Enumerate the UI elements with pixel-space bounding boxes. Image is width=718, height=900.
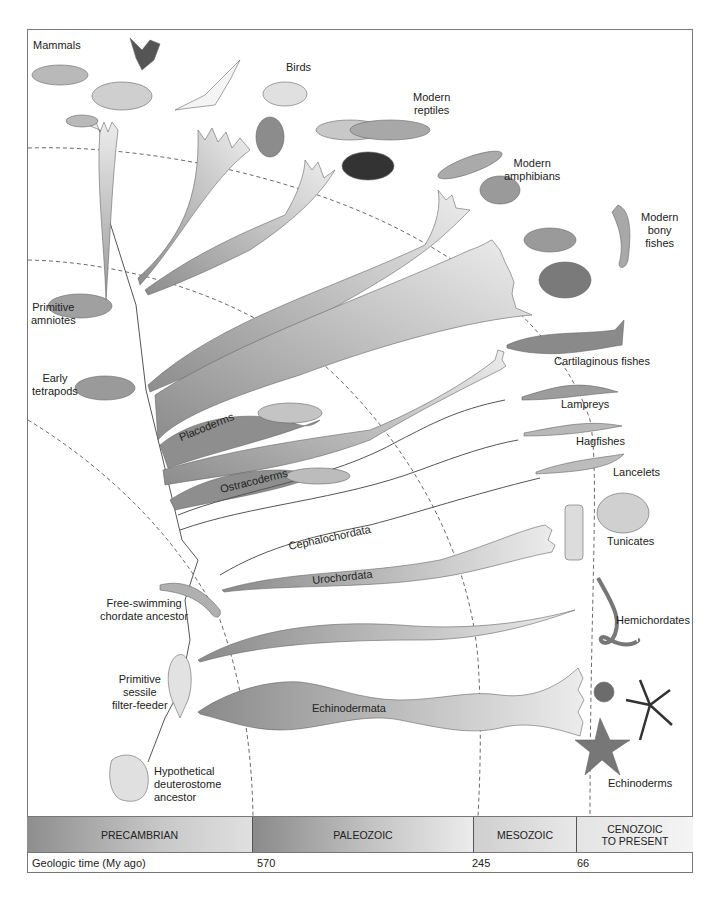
placoderm-icon xyxy=(258,403,322,423)
manatee-icon xyxy=(92,82,152,110)
lancelet-icon xyxy=(536,454,624,474)
ferret-icon xyxy=(32,65,88,85)
bat-icon xyxy=(130,38,160,70)
label-early-tetrapods: Early tetrapods xyxy=(32,372,78,398)
label-primitive-amniotes: Primitive amniotes xyxy=(31,301,76,327)
gannet-icon xyxy=(175,60,240,110)
era-mesozoic: MESOZOIC xyxy=(474,817,577,852)
label-modern-amphibians: Modern amphibians xyxy=(504,157,560,183)
tick-66: 66 xyxy=(577,857,589,869)
shark-icon xyxy=(507,320,624,354)
tunicate-sessile-icon xyxy=(565,505,583,560)
acorn-worm-icon xyxy=(598,578,638,644)
tunicate-larva-icon xyxy=(597,493,649,533)
sea-star-icon xyxy=(575,718,630,775)
branch-echinodermata xyxy=(198,668,584,736)
era-paleozoic: PALEOZOIC xyxy=(253,817,474,852)
label-hypothetical-ancestor: Hypothetical deuterostome ancestor xyxy=(154,765,221,804)
label-echinoderms: Echinoderms xyxy=(608,777,672,790)
label-modern-reptiles: Modern reptiles xyxy=(413,91,450,117)
branch-reptiles xyxy=(145,160,335,295)
sea-urchin-icon xyxy=(594,682,614,702)
tetrapod-icon xyxy=(75,376,135,400)
label-mammals: Mammals xyxy=(33,39,81,52)
label-sessile-filter-feeder: Primitive sessile filter-feeder xyxy=(112,673,168,712)
squirrelfish-icon xyxy=(524,228,576,252)
label-hagfishes: Hagfishes xyxy=(576,435,625,448)
label-hemichordates: Hemichordates xyxy=(616,614,690,627)
era-bar: PRECAMBRIAN PALEOZOIC MESOZOIC CENOZOIC … xyxy=(27,816,693,852)
label-echinodermata: Echinodermata xyxy=(312,702,386,715)
label-free-swimming-ancestor: Free-swimming chordate ancestor xyxy=(100,597,188,623)
brittle-star-icon xyxy=(626,680,672,740)
branch-urochordata xyxy=(222,525,555,592)
deuterostome-ancestor-icon xyxy=(110,755,149,801)
label-cartilaginous-fishes: Cartilaginous fishes xyxy=(554,355,650,368)
iguana-icon xyxy=(350,120,430,140)
geologic-time-axis: Geologic time (My ago) 570 245 66 xyxy=(27,852,693,873)
mole-icon xyxy=(66,115,98,127)
label-lancelets: Lancelets xyxy=(613,466,660,479)
turtle-icon xyxy=(342,152,394,180)
phylogenetic-tree xyxy=(0,0,718,900)
branch-mammals xyxy=(90,122,118,300)
seahorse-icon xyxy=(612,205,630,268)
label-modern-bony-fishes: Modern bony fishes xyxy=(641,211,678,250)
tick-570: 570 xyxy=(257,857,275,869)
ostracoderm-icon xyxy=(286,468,350,484)
filter-feeder-icon xyxy=(168,654,191,718)
label-tunicates: Tunicates xyxy=(607,535,654,548)
duck-icon xyxy=(263,82,307,106)
era-precambrian: PRECAMBRIAN xyxy=(27,817,253,852)
tick-245: 245 xyxy=(472,857,490,869)
axis-label: Geologic time (My ago) xyxy=(32,857,146,869)
surgeonfish-icon xyxy=(539,262,591,298)
era-cenozoic: CENOZOIC TO PRESENT xyxy=(577,817,693,852)
branch-hemichordates xyxy=(198,610,575,662)
label-birds: Birds xyxy=(286,61,311,74)
label-lampreys: Lampreys xyxy=(561,398,609,411)
kingfisher-icon xyxy=(256,117,284,157)
